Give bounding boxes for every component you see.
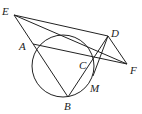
label-A: A xyxy=(18,40,26,52)
label-C: C xyxy=(79,59,87,71)
segment-DB xyxy=(68,36,108,97)
segment-ED xyxy=(14,15,108,36)
label-B: B xyxy=(64,100,71,112)
label-F: F xyxy=(129,64,137,76)
label-M: M xyxy=(89,82,100,94)
label-D: D xyxy=(110,27,119,39)
label-E: E xyxy=(1,5,9,17)
geometry-diagram: E A D C F B M xyxy=(0,0,142,114)
segment-EB xyxy=(14,15,68,97)
